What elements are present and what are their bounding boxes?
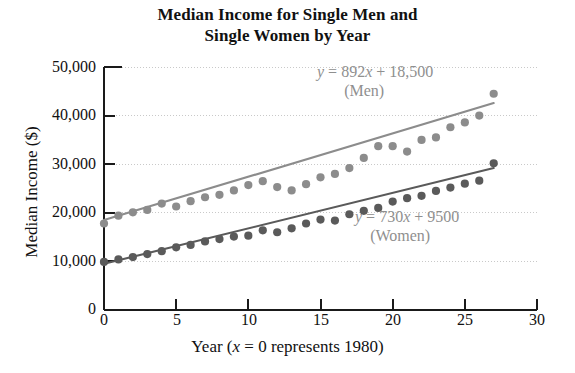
annotation-women-equation-tail: + 9500 [410, 208, 459, 225]
x-axis-title: Year (x = 0 represents 1980) [0, 337, 575, 357]
chart-figure: Median Income for Single Men and Single … [0, 0, 575, 373]
x-tick-label-15: 15 [291, 312, 351, 328]
annotation-women-equation-rest: = 730 [362, 208, 403, 225]
x-tick-label-10: 10 [219, 312, 279, 328]
x-tick-label-20: 20 [363, 312, 423, 328]
annotation-women-label: (Women) [355, 226, 445, 245]
x-axis-title-variable: x [233, 337, 241, 356]
axis-lines [104, 67, 537, 310]
annotation-men: y = 892x + 18,500 (Men) [317, 62, 433, 100]
x-tick-label-5: 5 [147, 312, 207, 328]
annotation-men-equation-tail: + 18,500 [372, 63, 433, 80]
x-axis-title-after: = 0 represents 1980) [240, 337, 384, 356]
annotation-men-label: (Men) [317, 81, 411, 100]
x-tick-label-30: 30 [507, 312, 567, 328]
annotation-men-equation-rest: = 892 [324, 63, 365, 80]
x-axis-title-before: Year ( [191, 337, 232, 356]
x-tick-label-25: 25 [435, 312, 495, 328]
x-tick-label-0: 0 [74, 312, 134, 328]
annotation-women: y = 730x + 9500 (Women) [355, 207, 459, 245]
